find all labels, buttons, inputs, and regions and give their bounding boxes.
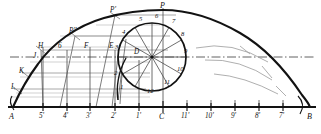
label-point-J: J xyxy=(33,53,36,60)
label-baseline-5prime: 5' xyxy=(39,113,44,120)
arc-construction-marks xyxy=(196,46,286,96)
label-baseline-1prime: 1' xyxy=(136,113,141,120)
label-apex-P: P xyxy=(160,2,165,10)
label-mark-F: F xyxy=(84,43,88,50)
label-mark-E: E xyxy=(109,43,113,50)
label-division-10: 10 xyxy=(177,66,184,73)
label-division-8: 8 xyxy=(181,31,184,38)
label-baseline-3prime: 3' xyxy=(86,113,91,120)
label-division-3: 3 xyxy=(115,44,118,51)
label-baseline-A: A xyxy=(9,113,14,121)
label-division-7: 7 xyxy=(172,18,175,25)
label-point-p-double-prime: P'' xyxy=(69,28,76,35)
label-point-p-prime: P' xyxy=(110,7,116,14)
label-mark-6: 6 xyxy=(58,43,62,50)
label-point-H: H xyxy=(38,43,43,50)
label-division-1: 1 xyxy=(120,84,123,91)
label-division-12: 12 xyxy=(147,88,154,95)
label-baseline-B: B xyxy=(307,113,312,121)
label-baseline-4prime: 4' xyxy=(63,113,68,120)
label-division-4: 4 xyxy=(122,29,125,36)
label-division-9: 9 xyxy=(184,48,187,55)
arc-marks-left xyxy=(12,12,120,94)
label-baseline-2prime: 2' xyxy=(111,113,116,120)
label-division-6: 6 xyxy=(155,13,158,20)
label-baseline-10prime: 10' xyxy=(205,113,214,120)
circle-center-dot xyxy=(150,55,153,58)
label-baseline-11prime: 11' xyxy=(181,113,189,120)
label-mark-D: D xyxy=(134,49,139,56)
label-baseline-8prime: 8' xyxy=(255,113,260,120)
label-baseline-C: C xyxy=(159,113,164,121)
drawing-canvas: P P' P'' H J K L 6 F E D 1 2 3 4 5 6 7 8… xyxy=(0,0,321,134)
label-baseline-7prime: 7' xyxy=(279,113,284,120)
label-point-L: L xyxy=(11,84,15,91)
label-point-K: K xyxy=(19,68,24,75)
ordinate-verticals xyxy=(43,8,283,107)
label-baseline-9prime: 9' xyxy=(231,113,236,120)
label-division-11: 11 xyxy=(164,79,170,86)
label-division-2: 2 xyxy=(114,70,117,77)
label-division-5: 5 xyxy=(139,16,142,23)
